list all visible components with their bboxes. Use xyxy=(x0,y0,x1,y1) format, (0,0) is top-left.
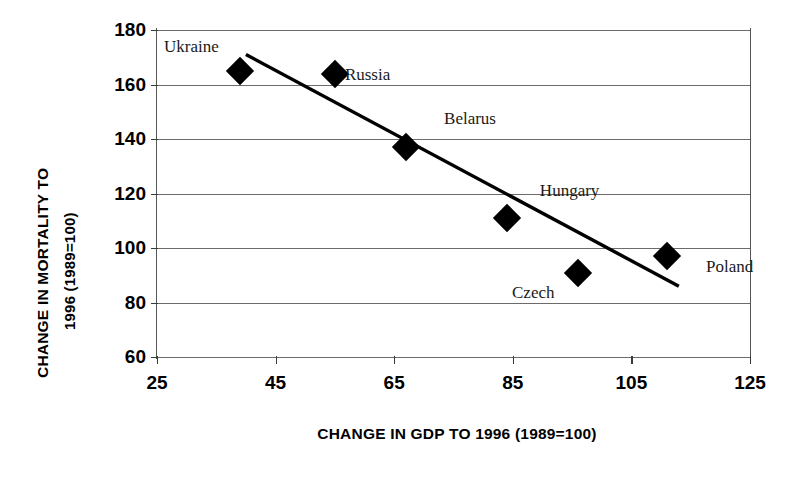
x-tick-label: 105 xyxy=(616,372,648,394)
data-label-ukraine: Ukraine xyxy=(164,37,219,57)
data-point-marker-belarus[interactable] xyxy=(392,133,420,161)
data-point-marker-ukraine[interactable] xyxy=(226,57,254,85)
data-point-marker-poland[interactable] xyxy=(653,242,681,270)
x-tick-mark xyxy=(513,356,514,364)
gridline xyxy=(157,85,750,86)
y-tick-label: 60 xyxy=(125,346,146,368)
x-tick-label: 85 xyxy=(502,372,523,394)
data-point-marker-czech[interactable] xyxy=(564,258,592,286)
gridline xyxy=(157,303,750,304)
x-tick-label: 25 xyxy=(146,372,167,394)
y-tick-label: 120 xyxy=(114,183,146,205)
y-tick-mark xyxy=(151,248,158,249)
x-tick-label: 125 xyxy=(734,372,766,394)
y-tick-mark xyxy=(151,303,158,304)
x-tick-mark xyxy=(631,356,632,364)
chart-figure: CHANGE IN MORTALITY TO 1996 (1989=100) 6… xyxy=(0,0,802,489)
x-tick-label: 45 xyxy=(265,372,286,394)
gridline xyxy=(157,139,750,140)
data-label-belarus: Belarus xyxy=(444,109,496,129)
y-tick-label: 180 xyxy=(114,19,146,41)
y-tick-mark xyxy=(151,30,158,31)
y-tick-mark xyxy=(151,139,158,140)
data-label-hungary: Hungary xyxy=(540,181,599,201)
gridline xyxy=(157,30,750,31)
x-tick-mark xyxy=(394,356,395,364)
data-label-poland: Poland xyxy=(706,257,753,277)
x-tick-label: 65 xyxy=(384,372,405,394)
gridline xyxy=(157,357,750,358)
gridline xyxy=(157,194,750,195)
y-tick-label: 100 xyxy=(114,237,146,259)
data-point-marker-hungary[interactable] xyxy=(493,204,521,232)
plot-area: 6080100120140160180 25456585105125 Ukrai… xyxy=(157,30,750,357)
x-tick-mark xyxy=(276,356,277,364)
x-axis-title: CHANGE IN GDP TO 1996 (1989=100) xyxy=(157,425,757,443)
y-axis-title-line-2: 1996 (1989=100) xyxy=(61,212,78,330)
y-tick-mark xyxy=(151,85,158,86)
y-tick-label: 160 xyxy=(114,74,146,96)
x-tick-mark xyxy=(157,356,158,364)
x-tick-mark xyxy=(750,356,751,364)
data-label-czech: Czech xyxy=(512,283,554,303)
y-axis-title-line-1: CHANGE IN MORTALITY TO xyxy=(34,168,52,378)
y-tick-label: 140 xyxy=(114,128,146,150)
y-tick-label: 80 xyxy=(125,292,146,314)
data-label-russia: Russia xyxy=(345,65,390,85)
y-axis-title: CHANGE IN MORTALITY TO 1996 (1989=100) xyxy=(8,0,118,400)
y-tick-mark xyxy=(151,194,158,195)
